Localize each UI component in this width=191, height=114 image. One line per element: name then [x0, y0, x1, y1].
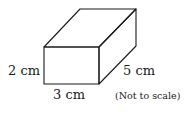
front-face [44, 47, 99, 84]
top-face [44, 9, 136, 47]
depth-label: 5 cm [123, 63, 155, 78]
cuboid-diagram: 2 cm 3 cm 5 cm (Not to scale) [0, 0, 191, 114]
height-label: 2 cm [8, 63, 40, 78]
width-label: 3 cm [53, 87, 85, 102]
not-to-scale-note: (Not to scale) [115, 90, 180, 101]
